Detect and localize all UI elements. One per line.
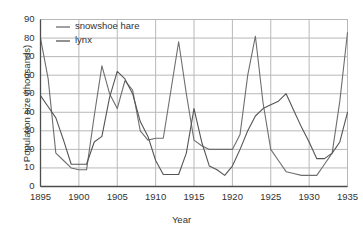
x-tick-label: 1925 — [253, 191, 289, 202]
x-tick-label: 1900 — [61, 191, 97, 202]
y-tick-label: 70 — [11, 50, 35, 61]
y-tick-label: 40 — [11, 106, 35, 117]
x-tick-label: 1905 — [99, 191, 135, 202]
y-tick-label: 30 — [11, 124, 35, 135]
x-tick-label: 1895 — [23, 191, 59, 202]
x-tick-label: 1935 — [330, 191, 363, 202]
y-tick-label: 90 — [11, 13, 35, 24]
x-tick-label: 1930 — [291, 191, 327, 202]
y-tick-label: 0 — [11, 180, 35, 191]
x-tick-label: 1920 — [214, 191, 250, 202]
legend-label-lynx: lynx — [75, 34, 92, 45]
y-tick-label: 60 — [11, 69, 35, 80]
legend-label-snowshoe-hare: snowshoe hare — [75, 20, 139, 31]
y-tick-label: 80 — [11, 32, 35, 43]
x-tick-label: 1910 — [138, 191, 174, 202]
y-tick-label: 50 — [11, 87, 35, 98]
y-tick-label: 20 — [11, 143, 35, 154]
x-tick-label: 1915 — [176, 191, 212, 202]
y-tick-label: 10 — [11, 161, 35, 172]
x-axis-title: Year — [0, 214, 363, 225]
population-line-chart: Population size (thousands) Year 9080706… — [0, 0, 363, 233]
